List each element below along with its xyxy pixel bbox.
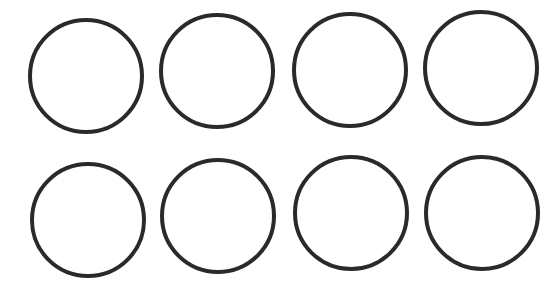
- circle-r1-c2: [159, 13, 275, 129]
- circle-r1-c3: [292, 12, 408, 128]
- circle-r1-c1: [28, 18, 144, 134]
- circle-r1-c4: [423, 10, 539, 126]
- circle-r2-c4: [424, 155, 540, 271]
- circle-r2-c3: [293, 155, 409, 271]
- circle-r2-c1: [30, 162, 146, 278]
- circle-r2-c2: [160, 158, 276, 274]
